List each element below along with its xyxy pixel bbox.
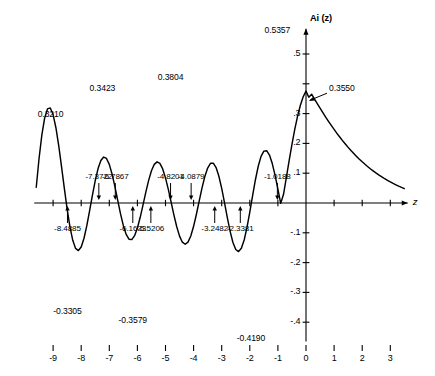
y-tick-label: .1 — [293, 168, 300, 177]
y-tick-label: -.2 — [290, 258, 300, 267]
maximum-label: 0.3423 — [90, 84, 116, 93]
zero-above-label: -1.0188 — [264, 173, 291, 181]
zero-arrowhead-down — [168, 196, 172, 200]
x-tick-label: -1 — [274, 354, 282, 363]
x-tick-label: -4 — [190, 354, 198, 363]
x-tick-label: -6 — [133, 354, 141, 363]
y-axis-title: Ai (z) — [310, 14, 332, 23]
y-axis-arrow — [303, 29, 308, 35]
y-tick-label: -.1 — [290, 228, 300, 237]
y-tick-label: .5 — [293, 49, 300, 58]
x-tick-label: 3 — [388, 354, 393, 363]
x-tick-label: 0 — [304, 354, 309, 363]
x-tick-label: -2 — [246, 354, 254, 363]
x-tick-label: -3 — [218, 354, 226, 363]
zero-arrowhead-down — [189, 196, 193, 200]
zero-above-label: -6.7867 — [102, 173, 129, 181]
zero-below-label: -3.2482 — [201, 225, 228, 233]
maximum-label: 0.5357 — [265, 26, 291, 35]
x-tick-label: -5 — [162, 354, 170, 363]
zero-below-label: -8.4885 — [54, 225, 81, 233]
minimum-label: -0.3305 — [53, 307, 81, 316]
x-tick-label: -7 — [105, 354, 113, 363]
x-tick-label: -8 — [77, 354, 85, 363]
y-tick-label: .3 — [293, 109, 300, 118]
maximum-label: 0.3804 — [158, 73, 184, 82]
y-tick-label: -.3 — [290, 287, 300, 296]
plot-canvas — [0, 0, 435, 376]
zero-above-label: -4.0879 — [178, 173, 205, 181]
zero-arrowhead-up — [213, 206, 217, 210]
zero-below-label: -5.5206 — [137, 225, 164, 233]
y-intercept-label: 0.3550 — [329, 84, 355, 93]
zero-below-label: -2.3381 — [227, 225, 254, 233]
y-tick-label: -.4 — [290, 317, 300, 326]
y-tick-label: .2 — [293, 138, 300, 147]
airy-function-chart: .5.3.2.1-.1-.2-.3-.4-9-8-7-6-5-4-3-2-101… — [0, 0, 435, 376]
zero-arrowhead-down — [97, 196, 101, 200]
x-tick-label: -9 — [49, 354, 57, 363]
zero-arrowhead-up — [238, 206, 242, 210]
maximum-label: 0.3210 — [38, 110, 64, 119]
x-tick-label: 1 — [332, 354, 337, 363]
minimum-label: -0.4190 — [237, 334, 265, 343]
zero-arrowhead-up — [149, 206, 153, 210]
x-axis-arrow — [402, 200, 408, 205]
zero-arrowhead-up — [131, 206, 135, 210]
x-axis-title: z — [413, 197, 418, 207]
zero-arrowhead-up — [65, 206, 69, 210]
x-tick-label: 2 — [360, 354, 365, 363]
minimum-label: -0.3579 — [119, 316, 147, 325]
